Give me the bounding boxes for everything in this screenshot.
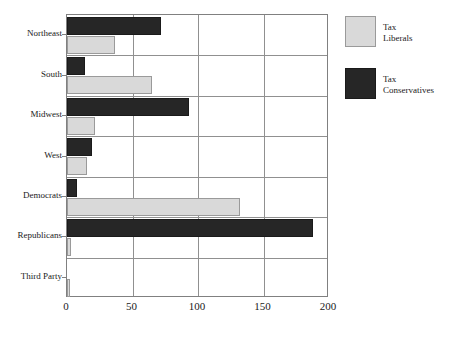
legend-swatch-light xyxy=(345,16,376,47)
legend-swatch-dark xyxy=(345,68,376,99)
gridline-horizontal xyxy=(67,177,327,178)
plot-area xyxy=(66,14,328,297)
x-axis-tick-label: 200 xyxy=(308,300,348,312)
y-axis-tick xyxy=(62,236,66,237)
bar-tax-conservatives xyxy=(67,17,161,35)
y-axis-tick xyxy=(62,277,66,278)
x-axis-tick-label: 150 xyxy=(243,300,283,312)
legend-label-line1: Tax xyxy=(383,22,396,32)
gridline-horizontal xyxy=(67,258,327,259)
legend-label-line1: Tax xyxy=(383,74,396,84)
y-axis-tick xyxy=(62,34,66,35)
gridline-horizontal xyxy=(67,136,327,137)
bar-tax-liberals xyxy=(67,238,71,256)
legend-label-tax-liberals: Tax Liberals xyxy=(383,22,413,44)
y-axis-tick xyxy=(62,196,66,197)
legend-label-line2: Conservatives xyxy=(383,85,434,95)
y-axis-tick xyxy=(62,115,66,116)
y-axis-label-midwest: Midwest xyxy=(0,110,68,119)
x-axis-tick-label: 100 xyxy=(177,300,217,312)
y-axis-label-democrats: Democrats xyxy=(0,191,68,200)
bar-chart: 050100150200 NortheastSouthMidwestWestDe… xyxy=(0,0,449,338)
gridline-vertical xyxy=(264,15,265,296)
bar-tax-conservatives xyxy=(67,98,189,116)
y-axis-tick xyxy=(62,156,66,157)
gridline-vertical xyxy=(133,15,134,296)
y-axis-label-south: South xyxy=(0,70,68,79)
bar-tax-liberals xyxy=(67,76,152,94)
bar-tax-conservatives xyxy=(67,57,85,75)
bar-tax-liberals xyxy=(67,117,95,135)
y-axis-label-west: West xyxy=(0,151,68,160)
gridline-vertical xyxy=(198,15,199,296)
bar-tax-conservatives xyxy=(67,179,77,197)
bar-tax-liberals xyxy=(67,198,240,216)
bar-tax-liberals xyxy=(67,157,87,175)
bar-tax-liberals xyxy=(67,36,115,54)
x-axis-tick-label: 50 xyxy=(112,300,152,312)
x-axis-tick-label: 0 xyxy=(46,300,86,312)
bar-tax-conservatives xyxy=(67,138,92,156)
gridline-horizontal xyxy=(67,55,327,56)
legend-label-line2: Liberals xyxy=(383,33,413,43)
gridline-horizontal xyxy=(67,96,327,97)
y-axis-tick xyxy=(62,75,66,76)
bar-tax-liberals xyxy=(67,279,70,297)
y-axis-label-republicans: Republicans xyxy=(0,231,68,240)
y-axis-label-northeast: Northeast xyxy=(0,29,68,38)
legend-label-tax-conservatives: Tax Conservatives xyxy=(383,74,434,96)
gridline-horizontal xyxy=(67,217,327,218)
bar-tax-conservatives xyxy=(67,219,313,237)
y-axis-label-third-party: Third Party xyxy=(0,272,68,281)
